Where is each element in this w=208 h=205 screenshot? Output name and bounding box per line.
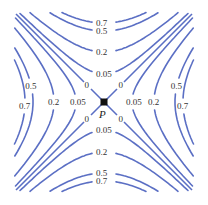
contour-label-top: 0.05 — [96, 69, 112, 79]
saddle-point-marker — [101, 99, 108, 106]
contour-right-0.7 — [183, 60, 193, 98]
saddle-point-label: P — [98, 108, 106, 120]
contour-left-0.7 — [15, 60, 25, 98]
contour-label-bottom: 0.2 — [96, 147, 107, 157]
saddle-contour-plot: 00000.050.050.050.050.20.20.20.20.50.50.… — [0, 0, 208, 205]
contour-label-left: 0.05 — [70, 97, 86, 107]
contour-left-0.7 — [15, 114, 25, 144]
saddle-point: P — [98, 99, 108, 121]
contour-label-bottom: 0.7 — [96, 176, 108, 186]
contour-right-0.05 — [133, 110, 192, 186]
contour-label-bottom: 0.05 — [96, 125, 112, 135]
contour-left-0.05 — [16, 110, 75, 186]
contour-label-right: 0.5 — [171, 81, 183, 91]
contour-label-left: 0.5 — [25, 81, 37, 91]
contour-right-0.05 — [133, 18, 192, 94]
contour-right-0.7 — [184, 114, 194, 144]
contour-label-left: 0.7 — [19, 101, 31, 111]
contour-bottom-0.7 — [116, 182, 146, 192]
contour-label-top: 0.7 — [96, 18, 108, 28]
contour-label-right: 0.2 — [148, 97, 159, 107]
zero-level-label: 0 — [119, 80, 124, 90]
contour-left-0.5 — [15, 48, 29, 78]
zero-level-label: 0 — [85, 80, 90, 90]
contour-bottom-0.7 — [62, 182, 92, 192]
contour-label-right: 0.7 — [177, 101, 189, 111]
contour-label-right: 0.05 — [126, 97, 142, 107]
contour-top-0.7 — [62, 13, 92, 23]
contour-top-0.7 — [116, 13, 146, 23]
zero-level-label: 0 — [119, 114, 124, 124]
contour-label-top: 0.2 — [96, 47, 107, 57]
zero-level-label: 0 — [85, 114, 90, 124]
contour-right-0.5 — [179, 48, 193, 78]
contour-label-left: 0.2 — [48, 97, 59, 107]
